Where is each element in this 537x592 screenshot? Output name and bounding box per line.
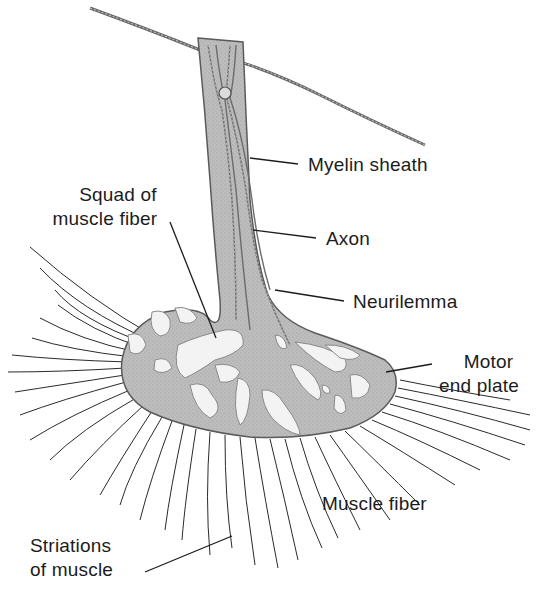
label-striations-line2: of muscle xyxy=(30,558,113,581)
label-squad-line2: muscle fiber xyxy=(35,207,175,230)
label-myelin-sheath: Myelin sheath xyxy=(308,153,428,176)
label-squad-line1: Squad of xyxy=(48,183,188,206)
motor-end-plate-diagram: Myelin sheath Axon Neurilemma Squad of m… xyxy=(0,0,537,592)
label-motor-line2: end plate xyxy=(439,374,519,397)
label-muscle-fiber: Muscle fiber xyxy=(322,492,427,515)
label-motor-line1: Motor xyxy=(440,350,537,373)
nerve-node xyxy=(219,87,231,99)
crossing-nerve-fiber xyxy=(90,8,425,145)
label-axon: Axon xyxy=(326,227,370,250)
label-striations-line1: Striations xyxy=(30,534,111,557)
label-neurilemma: Neurilemma xyxy=(353,290,457,313)
